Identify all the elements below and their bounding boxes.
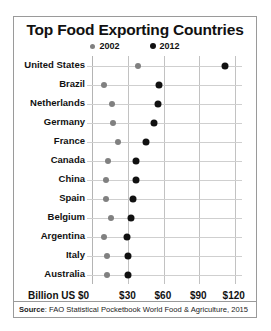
category-label: Italy: [66, 249, 85, 260]
chart-row: Argentina: [93, 237, 242, 238]
data-point-2002: [105, 158, 111, 164]
gridline: [128, 56, 129, 284]
x-tick-label: $120: [223, 290, 245, 301]
plot-area-wrapper: United StatesBrazilNetherlandsGermanyFra…: [14, 54, 256, 317]
data-point-2012: [130, 195, 137, 202]
chart-row: Netherlands: [93, 104, 242, 105]
row-gridline: [87, 142, 242, 143]
x-tick-label: $60: [155, 290, 172, 301]
data-point-2002: [109, 101, 115, 107]
data-point-2002: [135, 63, 141, 69]
legend-label-2012: 2012: [160, 41, 180, 51]
data-point-2012: [154, 100, 161, 107]
legend-label-2002: 2002: [99, 41, 119, 51]
x-tick-label: $30: [119, 290, 136, 301]
data-point-2002: [103, 177, 109, 183]
row-gridline: [87, 66, 242, 67]
source-label: Source: [19, 305, 45, 314]
page-title: Top Food Exporting Countries: [14, 21, 256, 39]
data-point-2012: [151, 119, 158, 126]
x-tick-label: $90: [190, 290, 207, 301]
gridline: [199, 56, 200, 284]
row-gridline: [87, 237, 242, 238]
x-tick-label: Billion US $0: [28, 290, 89, 301]
legend-swatch-2002: [90, 44, 95, 49]
chart-figure: Top Food Exporting Countries 2002 2012 U…: [13, 16, 257, 318]
category-label: Spain: [59, 192, 85, 203]
legend-item-2012: 2012: [150, 41, 180, 51]
data-point-2002: [104, 253, 110, 259]
category-label: Brazil: [59, 78, 85, 89]
data-point-2012: [132, 157, 139, 164]
source-text: : FAO Statistical Pocketbook World Food …: [45, 305, 248, 314]
category-label: China: [59, 173, 85, 184]
category-label: Australia: [44, 268, 85, 279]
data-point-2012: [125, 252, 132, 259]
data-point-2002: [115, 139, 121, 145]
row-gridline: [87, 275, 242, 276]
data-point-2012: [222, 62, 229, 69]
chart-row: United States: [93, 66, 242, 67]
category-label: Germany: [44, 116, 85, 127]
category-label: France: [54, 135, 85, 146]
legend-swatch-2012: [150, 43, 156, 49]
chart-row: Italy: [93, 256, 242, 257]
source-note: Source: FAO Statistical Pocketbook World…: [14, 301, 256, 317]
plot-area: United StatesBrazilNetherlandsGermanyFra…: [92, 56, 242, 284]
legend-item-2002: 2002: [90, 41, 119, 51]
data-point-2012: [132, 176, 139, 183]
chart-row: China: [93, 180, 242, 181]
chart-row: Belgium: [93, 218, 242, 219]
gridline: [235, 56, 236, 284]
data-point-2002: [103, 196, 109, 202]
data-point-2002: [101, 82, 107, 88]
data-point-2012: [125, 271, 132, 278]
chart-legend: 2002 2012: [14, 41, 256, 51]
gridline: [164, 56, 165, 284]
category-label: Belgium: [48, 211, 85, 222]
category-label: Argentina: [41, 230, 85, 241]
category-label: United States: [24, 59, 85, 70]
row-gridline: [87, 199, 242, 200]
chart-row: Australia: [93, 275, 242, 276]
data-point-2012: [127, 214, 134, 221]
data-point-2012: [143, 138, 150, 145]
data-point-2002: [110, 120, 116, 126]
row-gridline: [87, 85, 242, 86]
row-gridline: [87, 256, 242, 257]
chart-row: France: [93, 142, 242, 143]
row-gridline: [87, 180, 242, 181]
data-point-2012: [124, 233, 131, 240]
chart-row: Germany: [93, 123, 242, 124]
chart-row: Canada: [93, 161, 242, 162]
data-point-2012: [156, 81, 163, 88]
data-point-2002: [104, 272, 110, 278]
data-point-2002: [108, 215, 114, 221]
category-label: Netherlands: [30, 97, 85, 108]
chart-screenshot: Top Food Exporting Countries 2002 2012 U…: [0, 0, 271, 331]
chart-row: Spain: [93, 199, 242, 200]
data-point-2002: [101, 234, 107, 240]
chart-row: Brazil: [93, 85, 242, 86]
category-label: Canada: [51, 154, 85, 165]
